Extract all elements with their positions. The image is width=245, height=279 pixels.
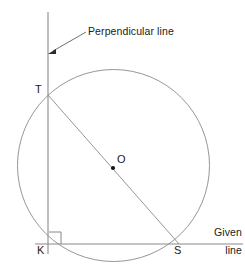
circle-shape: [18, 70, 210, 262]
given-line-annotation-line1: Given: [198, 227, 242, 238]
callout-leader-line: [53, 32, 86, 51]
given-line-annotation-line2: line: [198, 245, 242, 256]
point-label-k: K: [37, 245, 44, 257]
geometry-figure: T O K S Perpendicular line Given line: [0, 0, 245, 279]
point-label-t: T: [35, 84, 42, 96]
perpendicular-line-annotation: Perpendicular line: [88, 26, 174, 37]
point-label-o: O: [117, 154, 126, 166]
center-point-dot: [111, 166, 115, 170]
point-label-s: S: [174, 245, 181, 257]
